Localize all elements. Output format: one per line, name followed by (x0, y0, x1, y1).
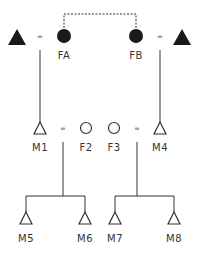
right-union-sign: = (157, 33, 163, 41)
m8-open-triangle-icon (168, 212, 180, 224)
m6-label: M6 (77, 233, 93, 244)
right-male-filled-triangle-icon (173, 29, 191, 45)
f3-open-circle-icon (109, 123, 120, 134)
f3-m4-union-sign: = (134, 125, 140, 133)
f2-open-circle-icon (81, 123, 92, 134)
m8-label: M8 (166, 233, 182, 244)
fb-filled-circle-icon (129, 29, 143, 43)
f2-label: F2 (79, 142, 92, 153)
sibship-line-right (115, 196, 174, 212)
m1-open-triangle-icon (34, 122, 46, 134)
m1-label: M1 (32, 142, 48, 153)
m1-f2-union-sign: = (60, 125, 66, 133)
m7-open-triangle-icon (109, 212, 121, 224)
left-male-filled-triangle-icon (8, 29, 26, 45)
m7-label: M7 (107, 233, 123, 244)
m5-label: M5 (18, 233, 34, 244)
dashed-link-fa-fb (64, 14, 136, 28)
fb-label: FB (129, 50, 143, 61)
m5-open-triangle-icon (20, 212, 32, 224)
left-union-sign: = (37, 33, 43, 41)
m4-label: M4 (152, 142, 168, 153)
f3-label: F3 (107, 142, 120, 153)
m6-open-triangle-icon (79, 212, 91, 224)
pedigree-diagram: = FA FB = M1 = F2 F3 = M4 M5 M6 M7 M8 (0, 0, 199, 254)
m4-open-triangle-icon (154, 122, 166, 134)
fa-label: FA (58, 50, 71, 61)
fa-filled-circle-icon (57, 29, 71, 43)
sibship-line-left (26, 196, 85, 212)
kinship-chart: = FA FB = M1 = F2 F3 = M4 M5 M6 M7 M8 (0, 0, 199, 254)
